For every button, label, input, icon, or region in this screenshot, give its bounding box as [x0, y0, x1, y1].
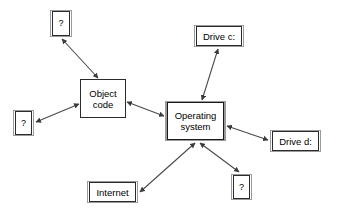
node-label-object: Object code [89, 88, 116, 110]
node-inner-internet: Internet [89, 182, 136, 202]
node-label-q_left: ? [21, 118, 26, 129]
node-inner-drive_c: Drive c: [196, 26, 242, 46]
edge-object-to-os [127, 102, 164, 116]
edge-os-to-internet [140, 143, 195, 192]
node-drive_d[interactable]: Drive d: [270, 130, 321, 152]
node-label-internet: Internet [96, 187, 128, 198]
edge-os-to-drive_c [202, 49, 218, 100]
node-label-os: Operating system [175, 110, 217, 132]
edge-os-to-drive_d [227, 126, 268, 140]
edge-object-to-q_left [36, 104, 79, 122]
edge-group [36, 39, 268, 192]
node-os[interactable]: Operating system [165, 101, 226, 141]
node-label-q_top: ? [58, 18, 63, 29]
node-label-drive_d: Drive d: [279, 136, 312, 147]
diagram-canvas: ?Drive c:Object code?Operating systemDri… [0, 0, 337, 215]
node-internet[interactable]: Internet [87, 181, 138, 203]
node-inner-q_left: ? [15, 111, 32, 135]
node-label-drive_c: Drive c: [203, 31, 235, 42]
node-label-q_bottom: ? [239, 182, 244, 193]
node-inner-os: Operating system [167, 102, 224, 140]
node-inner-q_top: ? [52, 11, 70, 36]
edge-object-to-q_top [62, 39, 98, 78]
node-q_bottom[interactable]: ? [231, 174, 252, 200]
node-q_top[interactable]: ? [50, 10, 72, 37]
node-object[interactable]: Object code [80, 79, 126, 118]
node-inner-q_bottom: ? [233, 175, 250, 199]
node-drive_c[interactable]: Drive c: [194, 25, 244, 47]
node-inner-drive_d: Drive d: [272, 131, 319, 151]
node-q_left[interactable]: ? [13, 110, 34, 136]
edge-os-to-q_bottom [200, 143, 239, 172]
